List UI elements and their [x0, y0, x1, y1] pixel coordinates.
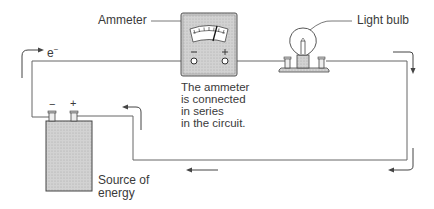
series-note-line1: The ammeter	[181, 81, 249, 94]
series-note-line3: in series	[181, 105, 224, 118]
electron-label: e−	[47, 43, 58, 60]
ammeter-label: Ammeter	[98, 14, 147, 27]
ammeter-device	[181, 13, 237, 76]
light-bulb-label: Light bulb	[357, 14, 409, 27]
electron-charge: −	[54, 45, 59, 54]
light-bulb-device	[279, 28, 329, 72]
electron-symbol: e	[47, 46, 54, 60]
light-bulb-leader-line	[310, 21, 352, 30]
battery-plus-sign: +	[70, 97, 76, 110]
battery-device	[46, 111, 92, 191]
battery-minus-sign: −	[49, 98, 55, 111]
series-note-line4: in the circuit.	[181, 117, 246, 130]
series-circuit-diagram: Ammeter Light bulb e− The ammeter is con…	[0, 0, 434, 209]
source-label-line2: energy	[98, 187, 135, 200]
series-note-line2: is connected	[181, 93, 246, 106]
